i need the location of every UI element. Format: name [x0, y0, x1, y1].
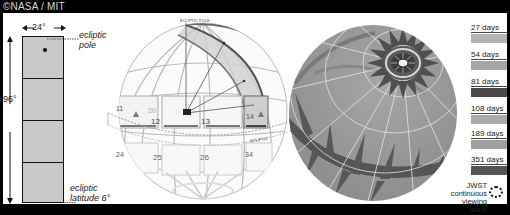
pole-label-line2: pole [79, 40, 107, 50]
continuous-viewing-zone-icon [489, 186, 503, 198]
credit-text: ©NASA / MIT [3, 1, 65, 12]
sector-number: 25 [153, 153, 162, 162]
segment-divider [23, 162, 63, 163]
height-label: 96° [3, 94, 17, 104]
legend-item-81-days: 81 days [471, 77, 507, 97]
legend-swatch [471, 140, 507, 149]
latitude-label-line1: ecliptic [70, 183, 110, 193]
latitude-label-line2: latitude 6° [70, 193, 110, 203]
sector-number: 12 [151, 117, 160, 126]
sector-number: 26 [200, 153, 209, 162]
legend-item-189-days: 189 days [471, 129, 507, 149]
sector-number: 34 [245, 151, 253, 158]
height-arrow-icon [6, 36, 14, 204]
legend-swatch [471, 88, 507, 97]
legend-label: 108 days [471, 104, 507, 114]
legend-swatch [471, 115, 507, 124]
legend-item-54-days: 54 days [471, 50, 507, 70]
ecliptic-pole-label: ECLIPTIC POLE [180, 18, 210, 23]
legend-item-108-days: 108 days [471, 104, 507, 124]
coverage-sphere-diagram [285, 13, 461, 204]
sector-number: 14 [246, 113, 254, 120]
jwst-cvz-label: JWST continuous viewing zone [445, 182, 487, 214]
legend-item-351-days: 351 days [471, 155, 507, 175]
pole-label: ecliptic pole [79, 30, 107, 50]
segment-divider [23, 120, 63, 121]
sector-sphere-diagram [106, 13, 306, 204]
sector-number: 24 [116, 151, 124, 158]
pole-leader-line [47, 37, 79, 41]
legend-label: 27 days [471, 23, 507, 33]
width-label: 24° [32, 22, 46, 32]
latitude-label: ecliptic latitude 6° [70, 183, 110, 203]
pole-label-line1: ecliptic [79, 30, 107, 40]
diagram-panel: 24° 96° ecliptic pole ecliptic latitude [3, 13, 507, 204]
observatory-icon [183, 109, 191, 115]
jwst-label-line3: viewing zone [445, 198, 487, 214]
legend-item-27-days: 27 days [471, 23, 507, 43]
legend-swatch [471, 166, 507, 175]
segment-divider [23, 78, 63, 79]
ecliptic-pole-marker [43, 48, 47, 52]
sector-number: 11 [116, 105, 123, 112]
legend-label: 351 days [471, 155, 507, 165]
observing-strip [22, 36, 64, 203]
legend-label: 189 days [471, 129, 507, 139]
sector-number: 20 [148, 107, 156, 114]
legend-label: 81 days [471, 77, 507, 87]
sector-number: 13 [201, 117, 210, 126]
legend-label: 54 days [471, 50, 507, 60]
legend-swatch [471, 61, 507, 70]
legend-swatch [471, 34, 507, 43]
